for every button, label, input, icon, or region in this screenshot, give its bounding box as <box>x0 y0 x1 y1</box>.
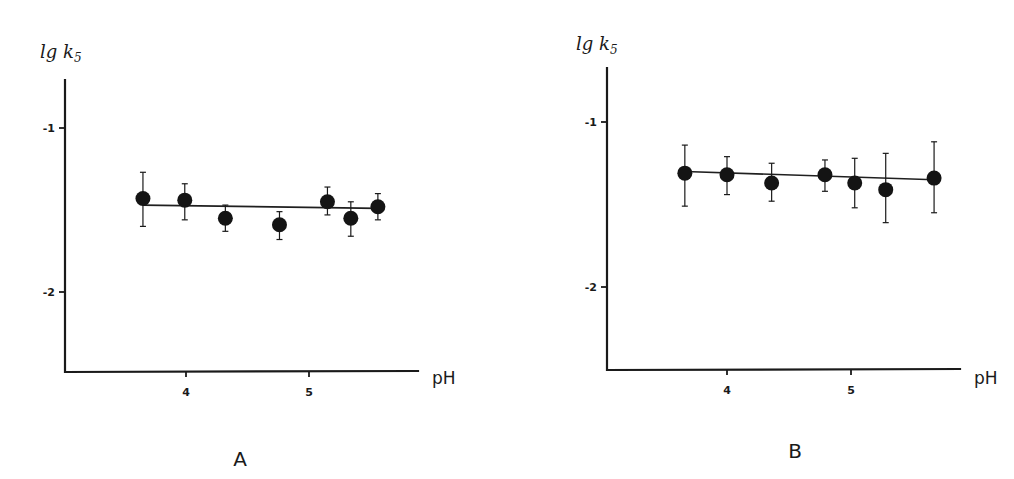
data-point <box>218 205 233 231</box>
data-point <box>720 157 735 195</box>
y-axis-label: lg k5 <box>40 41 82 65</box>
x-tick-label: 5 <box>305 386 313 399</box>
y-tick-label: -1 <box>585 116 597 129</box>
x-axis-label: pH <box>432 368 456 388</box>
axes <box>65 80 418 372</box>
y-axis-label: lg k5 <box>576 33 618 57</box>
x-axis-label: pH <box>974 368 998 388</box>
data-marker <box>847 176 862 191</box>
chart-a: -1-245lg k5pHA <box>40 41 456 471</box>
x-tick-label: 4 <box>182 386 190 399</box>
panel-label: A <box>233 447 247 471</box>
data-point <box>878 153 893 222</box>
y-axis-label-subscript: 5 <box>610 43 618 57</box>
data-point <box>177 184 192 220</box>
data-marker <box>878 182 893 197</box>
y-axis-label-subscript: 5 <box>74 51 82 65</box>
axes <box>607 68 960 370</box>
data-marker <box>764 176 779 191</box>
data-marker <box>720 167 735 182</box>
data-marker <box>677 166 692 181</box>
data-marker <box>817 167 832 182</box>
data-marker <box>272 217 287 232</box>
data-point <box>817 160 832 191</box>
panel-label: B <box>788 439 802 463</box>
data-point <box>847 158 862 208</box>
data-point <box>272 212 287 240</box>
data-point <box>927 142 942 213</box>
data-point <box>764 163 779 201</box>
data-point <box>135 172 150 226</box>
data-marker <box>218 211 233 226</box>
data-point <box>320 187 335 215</box>
fit-line <box>143 205 378 208</box>
x-tick-label: 5 <box>847 384 855 397</box>
data-marker <box>927 171 942 186</box>
x-tick-label: 4 <box>723 384 731 397</box>
data-marker <box>320 194 335 209</box>
data-marker <box>370 199 385 214</box>
data-marker <box>135 191 150 206</box>
figure: -1-245lg k5pHA -1-245lg k5pHB <box>0 0 1014 479</box>
y-tick-label: -2 <box>43 286 55 299</box>
chart-b: -1-245lg k5pHB <box>576 33 998 463</box>
y-tick-label: -2 <box>585 281 597 294</box>
y-tick-label: -1 <box>43 122 55 135</box>
data-marker <box>343 211 358 226</box>
data-point <box>677 145 692 206</box>
data-point <box>370 194 385 220</box>
data-point <box>343 202 358 236</box>
data-marker <box>177 193 192 208</box>
